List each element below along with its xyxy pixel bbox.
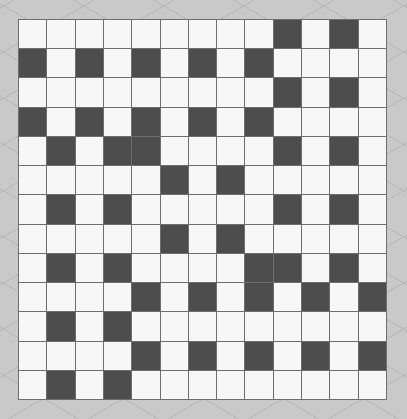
grid-cell-black[interactable] [245,342,272,370]
grid-cell-white[interactable] [330,166,357,194]
grid-cell-white[interactable] [330,108,357,136]
grid-cell-black[interactable] [274,195,301,223]
grid-cell-white[interactable] [245,312,272,340]
grid-cell-white[interactable] [76,20,103,48]
grid-cell-white[interactable] [217,137,244,165]
grid-cell-white[interactable] [161,312,188,340]
grid-cell-white[interactable] [161,254,188,282]
grid-cell-white[interactable] [359,78,386,106]
grid-cell-white[interactable] [132,312,159,340]
grid-cell-white[interactable] [217,312,244,340]
grid-cell-black[interactable] [104,254,131,282]
grid-cell-black[interactable] [274,78,301,106]
grid-cell-black[interactable] [161,166,188,194]
grid-cell-white[interactable] [330,342,357,370]
grid-cell-white[interactable] [274,371,301,399]
grid-cell-black[interactable] [47,254,74,282]
grid-cell-white[interactable] [274,283,301,311]
grid-cell-white[interactable] [132,254,159,282]
grid-cell-white[interactable] [189,137,216,165]
grid-cell-white[interactable] [19,342,46,370]
grid-cell-white[interactable] [189,371,216,399]
grid-cell-white[interactable] [189,254,216,282]
grid-cell-black[interactable] [47,195,74,223]
grid-cell-black[interactable] [104,195,131,223]
grid-cell-white[interactable] [302,254,329,282]
grid-cell-white[interactable] [161,283,188,311]
grid-cell-white[interactable] [161,195,188,223]
grid-cell-white[interactable] [189,20,216,48]
grid-cell-white[interactable] [47,49,74,77]
grid-cell-white[interactable] [359,20,386,48]
grid-cell-white[interactable] [245,371,272,399]
grid-cell-white[interactable] [132,225,159,253]
grid-cell-white[interactable] [19,195,46,223]
grid-cell-white[interactable] [245,20,272,48]
grid-cell-white[interactable] [47,20,74,48]
grid-cell-white[interactable] [217,371,244,399]
grid-cell-white[interactable] [245,225,272,253]
grid-cell-white[interactable] [104,108,131,136]
grid-cell-black[interactable] [19,108,46,136]
grid-cell-white[interactable] [76,312,103,340]
grid-cell-black[interactable] [302,283,329,311]
grid-cell-black[interactable] [359,342,386,370]
grid-cell-white[interactable] [330,371,357,399]
grid-cell-white[interactable] [104,342,131,370]
grid-cell-white[interactable] [19,20,46,48]
grid-cell-white[interactable] [161,371,188,399]
grid-cell-white[interactable] [274,342,301,370]
grid-cell-white[interactable] [302,371,329,399]
grid-cell-black[interactable] [245,283,272,311]
grid-cell-white[interactable] [217,20,244,48]
grid-cell-white[interactable] [274,225,301,253]
grid-cell-black[interactable] [217,166,244,194]
grid-cell-white[interactable] [76,371,103,399]
grid-cell-white[interactable] [217,254,244,282]
grid-cell-white[interactable] [76,254,103,282]
grid-cell-white[interactable] [76,195,103,223]
grid-cell-black[interactable] [330,137,357,165]
grid-cell-white[interactable] [19,254,46,282]
grid-cell-black[interactable] [104,371,131,399]
grid-cell-black[interactable] [359,283,386,311]
grid-cell-white[interactable] [104,283,131,311]
grid-cell-white[interactable] [245,137,272,165]
grid-cell-black[interactable] [245,254,272,282]
grid-cell-white[interactable] [330,312,357,340]
grid-cell-black[interactable] [330,195,357,223]
grid-cell-black[interactable] [76,108,103,136]
grid-cell-black[interactable] [330,254,357,282]
grid-cell-white[interactable] [132,195,159,223]
grid-cell-black[interactable] [132,49,159,77]
grid-cell-white[interactable] [19,312,46,340]
grid-cell-white[interactable] [302,20,329,48]
grid-cell-black[interactable] [245,49,272,77]
grid-cell-black[interactable] [47,312,74,340]
grid-cell-white[interactable] [189,312,216,340]
grid-cell-white[interactable] [359,137,386,165]
grid-cell-black[interactable] [132,283,159,311]
grid-cell-black[interactable] [274,137,301,165]
grid-cell-white[interactable] [302,108,329,136]
grid-cell-white[interactable] [245,195,272,223]
grid-cell-white[interactable] [359,108,386,136]
grid-cell-black[interactable] [19,49,46,77]
grid-cell-white[interactable] [217,195,244,223]
grid-cell-white[interactable] [161,20,188,48]
grid-cell-black[interactable] [104,137,131,165]
grid-cell-white[interactable] [161,78,188,106]
grid-cell-white[interactable] [302,225,329,253]
grid-cell-white[interactable] [19,371,46,399]
grid-cell-black[interactable] [330,20,357,48]
grid-cell-white[interactable] [274,49,301,77]
grid-cell-white[interactable] [47,342,74,370]
grid-cell-black[interactable] [104,312,131,340]
grid-cell-black[interactable] [189,108,216,136]
grid-cell-black[interactable] [132,137,159,165]
grid-cell-white[interactable] [161,342,188,370]
grid-cell-white[interactable] [161,108,188,136]
grid-cell-black[interactable] [189,49,216,77]
grid-cell-white[interactable] [76,166,103,194]
grid-cell-black[interactable] [274,20,301,48]
